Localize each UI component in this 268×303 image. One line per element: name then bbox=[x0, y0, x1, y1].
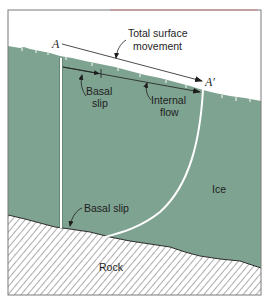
ice-label: Ice bbox=[212, 183, 226, 195]
point-a-label: A bbox=[51, 37, 60, 51]
total-surface-label-2: movement bbox=[133, 40, 182, 52]
basal-slip-upper-label-1: Basal bbox=[86, 85, 112, 97]
rock-label: Rock bbox=[99, 261, 124, 273]
internal-flow-label-2: flow bbox=[160, 106, 179, 118]
internal-flow-label-1: Internal bbox=[151, 94, 186, 106]
glacier-diagram: A A′ Total surface movement Basal slip I… bbox=[0, 0, 268, 303]
basal-slip-upper-label-2: slip bbox=[92, 97, 108, 109]
basal-slip-lower-label: Basal slip bbox=[84, 202, 129, 214]
point-a-prime-label: A′ bbox=[204, 75, 215, 89]
total-surface-label-1: Total surface bbox=[128, 27, 188, 39]
